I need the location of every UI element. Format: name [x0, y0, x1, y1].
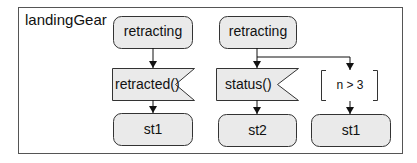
guard-label: n > 3: [322, 78, 378, 92]
frame-title: landingGear: [25, 11, 107, 28]
state-label: retracting: [219, 23, 297, 39]
signal-label: retracted(): [115, 76, 187, 92]
signal-label: status(): [225, 76, 275, 92]
state-label: st1: [311, 122, 391, 138]
state-label: retracting: [113, 23, 193, 39]
state-label: st2: [218, 122, 297, 138]
state-label: st1: [113, 121, 193, 137]
